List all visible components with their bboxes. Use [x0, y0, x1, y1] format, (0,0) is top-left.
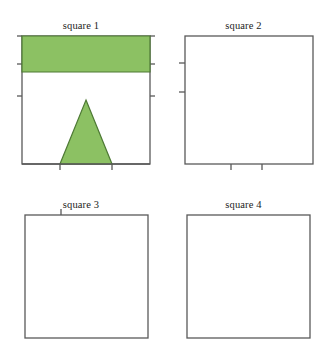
- tick-marks-square-2: [179, 63, 262, 170]
- panel-square-4: square 4: [162, 179, 325, 358]
- panel-square-2: square 2: [162, 0, 325, 179]
- panel-canvas-square-1: [0, 0, 162, 179]
- panel-square-1: square 1: [0, 0, 162, 179]
- panel-canvas-square-4: [162, 179, 325, 358]
- green-rectangle-shape: [22, 36, 150, 72]
- panel-square-3: square 3: [0, 179, 162, 358]
- square-outline-4: [187, 215, 310, 338]
- square-outline-2: [185, 36, 313, 164]
- square-outline-3: [25, 215, 148, 338]
- panel-canvas-square-3: [0, 179, 162, 358]
- panel-canvas-square-2: [162, 0, 325, 179]
- geometry-figure: square 1 square 2: [0, 0, 325, 358]
- green-triangle-shape: [60, 100, 112, 164]
- square-panels-grid: square 1 square 2: [0, 0, 325, 358]
